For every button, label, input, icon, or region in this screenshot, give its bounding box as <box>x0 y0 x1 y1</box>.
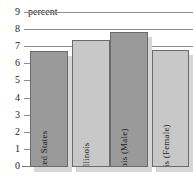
bar-label-wrap-4: Illinois (Female) <box>153 50 188 162</box>
bar-united-states[interactable]: United States <box>30 51 68 167</box>
bar-label-wrap-2: Illinois <box>73 42 109 162</box>
bar-label-illinois: Illinois <box>82 142 91 167</box>
bar-illinois[interactable]: Illinois <box>72 40 110 167</box>
bar-illinois-male[interactable]: Illinois (Male) <box>110 32 148 167</box>
bar-label-wrap-3: Illinois (Male) <box>111 42 147 162</box>
bar-chart: 9 8 7 6 5 4 3 2 1 0 percent United State… <box>0 0 193 185</box>
bar-label-illinois-male: Illinois (Male) <box>120 128 129 167</box>
bar-illinois-female[interactable]: Illinois (Female) <box>152 50 189 167</box>
bar-label-wrap-1: United States <box>31 51 67 162</box>
bar-label-illinois-female: Illinois (Female) <box>162 124 171 167</box>
bars-layer: United States Illinois Illinois (Male) I… <box>0 0 193 185</box>
bar-label-united-states: United States <box>40 131 49 167</box>
